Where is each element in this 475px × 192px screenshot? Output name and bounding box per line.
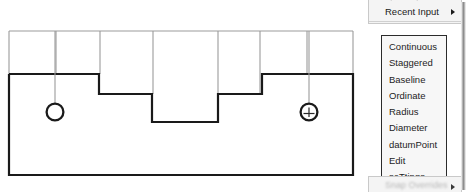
- left-hole-marker[interactable]: [47, 31, 64, 120]
- extension-line-group: [9, 31, 353, 94]
- submenu-item-staggered[interactable]: Staggered: [382, 55, 446, 71]
- context-menu-layer: Spline Input Recent Input Continuous Sta…: [366, 0, 475, 192]
- menu-item-spline-input-label: Spline Input: [385, 0, 427, 1]
- menu-item-snap-overrides[interactable]: Snap Overrides: [369, 177, 461, 192]
- submenu-item-continuous[interactable]: Continuous: [382, 39, 446, 55]
- menu-item-snap-overrides-label: Snap Overrides: [385, 180, 448, 190]
- submenu-item-baseline[interactable]: Baseline: [382, 72, 446, 88]
- submenu-item-ordinate[interactable]: Ordinate: [382, 88, 446, 104]
- submenu-item-edit[interactable]: Edit: [382, 153, 446, 169]
- vertical-scrollbar[interactable]: [461, 2, 466, 190]
- right-hole-marker[interactable]: [301, 31, 318, 120]
- cad-drawing-canvas[interactable]: [0, 0, 365, 192]
- chevron-right-icon: [451, 9, 455, 15]
- submenu-item-diameter[interactable]: Diameter: [382, 120, 446, 136]
- menu-separator: [369, 21, 461, 22]
- chevron-right-icon-bottom: [451, 184, 455, 190]
- left-hole-circle: [47, 104, 64, 121]
- submenu-item-radius[interactable]: Radius: [382, 104, 446, 120]
- submenu-item-datumpoint[interactable]: datumPoint: [382, 137, 446, 153]
- menu-item-recent-input-label: Recent Input: [385, 6, 439, 17]
- menu-item-recent-input[interactable]: Recent Input: [369, 3, 461, 20]
- parent-context-menu[interactable]: Spline Input Recent Input: [368, 0, 462, 24]
- parent-context-menu-bottom[interactable]: Snap Overrides: [368, 176, 462, 192]
- dimension-submenu[interactable]: Continuous Staggered Baseline Ordinate R…: [381, 35, 447, 190]
- part-profile-outline: [9, 74, 353, 175]
